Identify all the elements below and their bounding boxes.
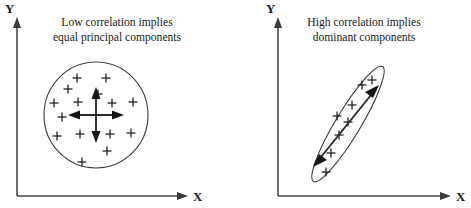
plus-marker [58, 113, 67, 122]
plus-marker [348, 101, 357, 110]
vertical-component-arrowhead-down [92, 131, 101, 143]
left-x-axis-arrowhead [177, 192, 188, 200]
plus-marker [50, 99, 59, 108]
plus-marker [64, 85, 73, 94]
plus-marker [129, 98, 138, 107]
horizontal-component-arrowhead-right [112, 111, 124, 120]
horizontal-component-arrowhead-left [68, 111, 80, 120]
pca-correlation-figure: Y X Low correlation implies equal princi… [0, 0, 471, 208]
plus-marker [127, 129, 136, 138]
plus-marker [368, 76, 377, 85]
plus-marker [73, 74, 82, 83]
left-caption-line-2: equal principal components [53, 31, 182, 44]
left-data-points [50, 74, 138, 167]
plus-marker [74, 98, 83, 107]
left-axes [13, 17, 188, 200]
right-y-axis-label: Y [266, 1, 276, 16]
left-caption-line-1: Low correlation implies [61, 16, 173, 29]
figure-canvas: Y X Low correlation implies equal princi… [0, 0, 471, 208]
right-y-axis-arrowhead [274, 17, 282, 28]
panel-left: Y X Low correlation implies equal princi… [5, 1, 203, 204]
right-axes [274, 17, 451, 200]
plus-marker [358, 81, 367, 90]
plus-marker [103, 147, 112, 156]
plus-marker [106, 130, 115, 139]
plus-marker [53, 132, 62, 141]
right-x-axis-label: X [456, 189, 466, 204]
plus-marker [76, 130, 85, 139]
plus-marker [102, 74, 111, 83]
left-y-axis-arrowhead [13, 17, 21, 28]
dominant-component-arrowhead-lower [313, 154, 327, 167]
plus-marker [322, 168, 331, 177]
plus-marker [108, 99, 117, 108]
right-principal-component-arrow [313, 85, 379, 167]
right-caption-line-2: dominant components [313, 31, 416, 44]
right-x-axis-arrowhead [440, 192, 451, 200]
panel-right: Y X High correlation implies dominant co… [266, 1, 466, 204]
vertical-component-arrowhead-up [92, 87, 101, 99]
right-caption-line-1: High correlation implies [307, 16, 421, 29]
left-y-axis-label: Y [5, 1, 15, 16]
left-x-axis-label: X [193, 189, 203, 204]
